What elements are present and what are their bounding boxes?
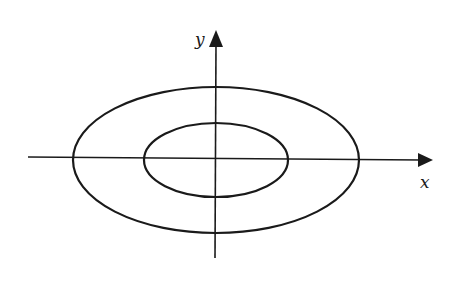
contour-diagram: x y (0, 0, 467, 285)
x-axis (28, 157, 422, 160)
y-axis-arrowhead-icon (209, 30, 223, 47)
x-axis-arrowhead-icon (418, 153, 433, 167)
y-axis-label: y (194, 29, 205, 49)
y-axis (215, 44, 216, 258)
x-axis-label: x (420, 172, 430, 192)
